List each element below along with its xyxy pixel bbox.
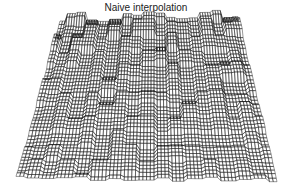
mesh-surface <box>16 10 277 181</box>
surface-plot <box>0 0 292 193</box>
